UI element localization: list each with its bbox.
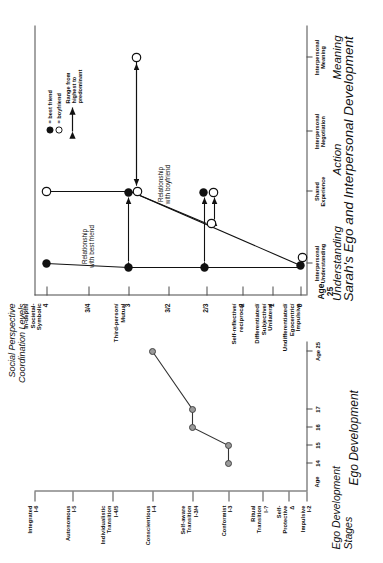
legend-filled-marker-icon (46, 127, 53, 134)
annotation-best-friend: Relationship with best friend (80, 215, 95, 277)
legend-open-marker-icon (55, 127, 62, 134)
annotation-boyfriend: Relationship with boyfriend (156, 153, 171, 215)
legend-open-label: = boyfriend (55, 93, 61, 123)
legend-filled-label: = best friend (46, 90, 52, 123)
figure-plate: Ego Development Stages Integrated I-6 Au… (0, 0, 383, 563)
legend-range-label: Range from highest to predominant (64, 69, 82, 103)
legend-range-arrow-icon (68, 99, 78, 133)
legend: = best friend = boyfriend Range from hig… (44, 25, 94, 133)
